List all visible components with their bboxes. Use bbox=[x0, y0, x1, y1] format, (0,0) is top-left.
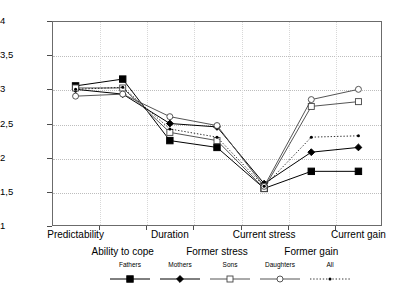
data-point bbox=[214, 144, 220, 150]
legend-key-fathers bbox=[108, 271, 152, 283]
legend-marker bbox=[177, 276, 184, 283]
data-point bbox=[121, 86, 124, 89]
data-point bbox=[355, 144, 362, 151]
legend-item-mothers[interactable]: Mothers bbox=[158, 261, 202, 283]
legend-marker bbox=[277, 276, 283, 282]
data-point bbox=[167, 137, 173, 143]
data-point bbox=[355, 99, 361, 105]
legend-key-all bbox=[308, 271, 352, 283]
legend-label: Sons bbox=[208, 261, 252, 269]
data-point bbox=[308, 168, 314, 174]
data-point bbox=[357, 134, 360, 137]
data-point bbox=[166, 120, 173, 127]
legend-key-sons bbox=[208, 271, 252, 283]
legend-item-all[interactable]: All bbox=[308, 261, 352, 283]
data-point bbox=[73, 93, 79, 99]
data-point bbox=[120, 91, 126, 97]
legend-item-sons[interactable]: Sons bbox=[208, 261, 252, 283]
data-point bbox=[74, 88, 77, 91]
legend-label: Daughters bbox=[258, 261, 302, 269]
legend-item-daughters[interactable]: Daughters bbox=[258, 261, 302, 283]
data-point bbox=[167, 114, 173, 120]
data-point bbox=[263, 185, 266, 188]
data-point bbox=[310, 136, 313, 139]
data-point bbox=[308, 97, 314, 103]
legend-marker bbox=[227, 276, 233, 282]
data-point bbox=[214, 123, 220, 129]
legend-label: All bbox=[308, 261, 352, 269]
chart-legend: FathersMothersSonsDaughtersAll bbox=[0, 261, 411, 291]
data-point bbox=[168, 127, 171, 130]
data-point bbox=[216, 136, 219, 139]
legend-key-daughters bbox=[258, 271, 302, 283]
legend-key-mothers bbox=[158, 271, 202, 283]
data-point bbox=[355, 86, 361, 92]
series-line-fathers bbox=[76, 79, 359, 188]
line-chart: 11,522,533,54 PredictabilityAbility to c… bbox=[0, 0, 411, 294]
legend-item-fathers[interactable]: Fathers bbox=[108, 261, 152, 283]
legend-marker bbox=[329, 278, 332, 281]
legend-label: Fathers bbox=[108, 261, 152, 269]
series-layer bbox=[0, 0, 411, 294]
data-point bbox=[355, 168, 361, 174]
legend-label: Mothers bbox=[158, 261, 202, 269]
legend-marker bbox=[127, 276, 133, 282]
data-point bbox=[120, 76, 126, 82]
data-point bbox=[308, 149, 315, 156]
series-all bbox=[74, 86, 360, 188]
